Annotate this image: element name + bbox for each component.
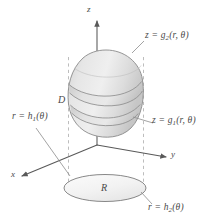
outer-boundary-prefix: r = h — [148, 202, 169, 212]
x-axis-label: x — [11, 170, 15, 179]
inner-boundary-label: r = h1(θ) — [12, 112, 48, 123]
region-R-label: R — [101, 183, 107, 193]
bottom-surface-label: z = g1(r, θ) — [152, 116, 196, 127]
inner-boundary-args: (θ) — [36, 111, 48, 121]
outer-boundary-args: (θ) — [172, 202, 184, 212]
top-surface-args: (r, θ) — [169, 30, 189, 40]
solid-region-D — [68, 50, 143, 137]
top-surface-label: z = g2(r, θ) — [145, 31, 189, 42]
leader-top-surface — [132, 41, 144, 53]
solid-D-label: D — [58, 95, 65, 105]
z-axis-label: z — [87, 5, 91, 14]
bottom-surface-prefix: z = g — [152, 115, 173, 125]
outer-boundary-label: r = h2(θ) — [148, 203, 184, 214]
leader-inner-boundary — [36, 128, 70, 176]
bottom-surface-args: (r, θ) — [176, 115, 196, 125]
top-surface-prefix: z = g — [145, 30, 166, 40]
polar-solid-figure: z y x D R z = g2(r, θ) z = g1(r, θ) r = … — [0, 0, 214, 223]
inner-boundary-prefix: r = h — [12, 111, 33, 121]
y-axis — [97, 145, 166, 157]
y-axis-label: y — [171, 150, 175, 159]
